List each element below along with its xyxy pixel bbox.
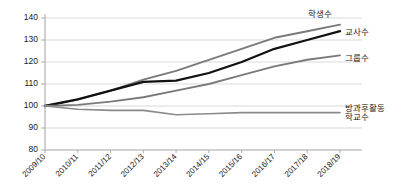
x-tick-label: 2016/17 <box>250 152 277 179</box>
series-line-1 <box>45 31 340 106</box>
series-line-3 <box>45 106 340 115</box>
series-label-2: 그룹수 <box>345 53 369 63</box>
line-chart: 8090100110120130140 2009/102010/112011/1… <box>0 0 396 194</box>
y-tick-label: 120 <box>24 56 38 66</box>
y-tick-label: 80 <box>29 144 39 154</box>
series-line-2 <box>45 55 340 106</box>
series-label-4: 학교수 <box>345 112 369 122</box>
chart-canvas: 8090100110120130140 2009/102010/112011/1… <box>0 0 396 194</box>
x-tick-label: 2012/13 <box>119 152 146 179</box>
x-tick-label: 2014/15 <box>184 152 211 179</box>
x-tick-label: 2017/18 <box>283 152 310 179</box>
x-tick-label: 2010/11 <box>54 152 81 179</box>
series-label-0: 학생수 <box>308 9 332 19</box>
y-tick-label: 140 <box>24 12 38 22</box>
y-tick-label: 90 <box>29 122 39 132</box>
x-tick-label: 2009/10 <box>21 152 48 179</box>
series-labels: 학생수교사수그룹수방과후활동학교수 <box>308 9 385 122</box>
y-tick-label: 100 <box>24 100 38 110</box>
data-series <box>45 25 340 115</box>
y-tick-label: 130 <box>24 34 38 44</box>
x-tick-label: 2013/14 <box>152 152 179 179</box>
y-axis <box>41 14 45 150</box>
x-tick-label: 2011/12 <box>87 152 114 179</box>
series-label-1: 교사수 <box>345 27 369 37</box>
series-line-0 <box>45 25 340 106</box>
y-tick-labels: 8090100110120130140 <box>24 12 38 154</box>
x-tick-label: 2018/19 <box>316 152 343 179</box>
x-tick-labels: 2009/102010/112011/122012/132013/142014/… <box>21 152 343 179</box>
gridlines <box>45 18 362 128</box>
x-tick-label: 2015/16 <box>217 152 244 179</box>
y-tick-label: 110 <box>24 78 38 88</box>
